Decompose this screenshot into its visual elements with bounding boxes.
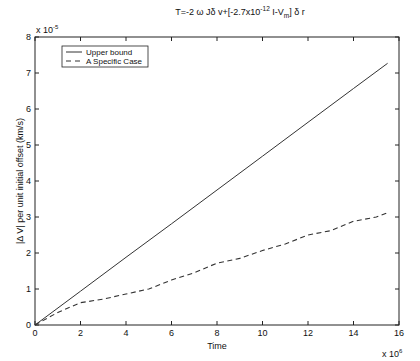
x-tick-label: 12 [303,328,313,338]
y-axis: 012345678 [26,32,399,330]
legend-label-specific-case: A Specific Case [86,57,143,66]
series-upper-bound [35,63,388,325]
y-axis-label: |Δ V| per unit initial offset (km/s) [15,118,25,244]
y-tick-label: 2 [26,248,31,258]
legend-label-upper-bound: Upper bound [86,48,132,57]
y-tick-label: 3 [26,212,31,222]
chart-title: T=-2 ω Jδ v+[-2.7x10-12 I-Vm] δ r [175,5,304,19]
x-tick-label: 2 [78,328,83,338]
x-tick-label: 16 [394,328,404,338]
y-tick-label: 4 [26,176,31,186]
chart: T=-2 ω Jδ v+[-2.7x10-12 I-Vm] δ r x 10-5… [0,0,420,361]
y-tick-label: 0 [26,320,31,330]
y-tick-label: 6 [26,104,31,114]
x-axis: 0246810121416 [32,37,404,338]
y-tick-label: 1 [26,284,31,294]
x-tick-label: 6 [169,328,174,338]
y-tick-label: 5 [26,140,31,150]
x-tick-label: 8 [214,328,219,338]
series-specific-case [35,213,388,325]
y-tick-label: 7 [26,68,31,78]
x-tick-label: 4 [123,328,128,338]
y-multiplier: x 10-5 [36,24,59,35]
y-tick-label: 8 [26,32,31,42]
x-tick-label: 10 [257,328,267,338]
x-multiplier: x 106 [382,348,403,359]
plot-area [35,37,399,325]
x-tick-label: 0 [32,328,37,338]
legend: Upper bound A Specific Case [62,46,148,67]
x-axis-label: Time [207,341,227,351]
x-tick-label: 14 [348,328,358,338]
